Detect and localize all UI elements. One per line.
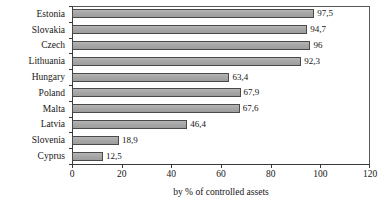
x-axis-tick-label: 40: [167, 168, 177, 180]
bar: [72, 104, 240, 113]
bar-value-label: 46,4: [190, 120, 206, 129]
bar: [72, 25, 307, 34]
bar-value-label: 67,9: [244, 88, 260, 97]
bar: [72, 41, 310, 50]
bar-chart: EstoniaSlovakiaCzechLithuaniaHungaryPola…: [0, 0, 388, 211]
bar-value-label: 97,5: [317, 9, 333, 18]
category-axis-labels: EstoniaSlovakiaCzechLithuaniaHungaryPola…: [0, 6, 69, 164]
bar-row: 67,6: [72, 101, 370, 117]
bar-value-label: 96: [313, 41, 322, 50]
bar-row: 18,9: [72, 132, 370, 148]
bar-value-label: 63,4: [232, 73, 248, 82]
bar: [72, 136, 119, 145]
category-label: Latvia: [0, 117, 69, 133]
x-axis-tick-label: 20: [117, 168, 127, 180]
bar: [72, 57, 301, 66]
x-axis-caption: by % of controlled assets: [72, 186, 370, 198]
bar-value-label: 94,7: [310, 25, 326, 34]
category-label: Slovenia: [0, 132, 69, 148]
bar: [72, 9, 314, 18]
bar-row: 46,4: [72, 117, 370, 133]
category-label: Malta: [0, 101, 69, 117]
bar-row: 94,7: [72, 22, 370, 38]
category-label: Poland: [0, 85, 69, 101]
bar-row: 97,5: [72, 6, 370, 22]
bar-value-label: 67,6: [243, 104, 259, 113]
bar-row: 63,4: [72, 69, 370, 85]
bar-row: 12,5: [72, 148, 370, 164]
bar-row: 96: [72, 38, 370, 54]
category-label: Czech: [0, 38, 69, 54]
bar-value-label: 18,9: [122, 136, 138, 145]
x-axis-tick-label: 60: [216, 168, 226, 180]
bar-series: 97,594,79692,363,467,967,646,418,912,5: [72, 6, 370, 164]
bar: [72, 73, 229, 82]
x-axis-tick-label: 100: [313, 168, 327, 180]
x-axis-tick-label: 120: [363, 168, 377, 180]
bar-row: 67,9: [72, 85, 370, 101]
category-label: Estonia: [0, 6, 69, 22]
bar-value-label: 92,3: [304, 57, 320, 66]
bar-value-label: 12,5: [106, 152, 122, 161]
x-axis-tick-label: 80: [266, 168, 276, 180]
category-label: Hungary: [0, 69, 69, 85]
bar: [72, 152, 103, 161]
category-label: Slovakia: [0, 22, 69, 38]
category-label: Lithuania: [0, 53, 69, 69]
category-label: Cyprus: [0, 148, 69, 164]
x-axis-tick-label: 0: [70, 168, 75, 180]
x-axis-tick-labels: 020406080100120: [72, 168, 370, 182]
bar: [72, 120, 187, 129]
bar-row: 92,3: [72, 53, 370, 69]
bar: [72, 88, 241, 97]
